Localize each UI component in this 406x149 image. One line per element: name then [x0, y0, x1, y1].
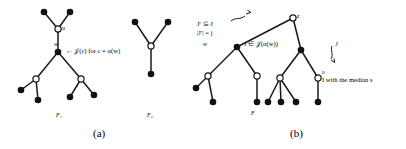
forest-label-f2: F₂ [147, 112, 153, 118]
tree-node-solid-w [234, 44, 241, 51]
tree-node-hollow [148, 43, 154, 49]
tree-node-hollow-u [55, 26, 61, 32]
tree-node-solid [67, 9, 74, 16]
annotation-i-median: I with the median s [322, 77, 373, 84]
panel-b-caption: (b) [290, 128, 303, 139]
tree-node-solid [148, 71, 155, 78]
node-label-z: z [297, 13, 299, 19]
annotation-jprime-subset: J′ ⊆ J [197, 21, 213, 28]
tree-node-solid [315, 99, 322, 106]
tree-node-hollow [277, 75, 283, 81]
panel-a-forest-f2 [132, 19, 172, 78]
node-label-w: w [54, 41, 58, 47]
tree-node-solid [165, 19, 172, 26]
forest-label-f: F [251, 110, 255, 116]
tree-node-solid [91, 92, 98, 99]
tree-node-hollow-u [315, 75, 321, 81]
tree-node-hollow [205, 73, 211, 79]
tree-node-solid [132, 19, 139, 26]
tree-node-hollow [78, 76, 84, 82]
annotation-j-in-j-alpha-w: J ∈ 𝒥(α(w)) [244, 41, 278, 48]
tree-node-solid [298, 47, 305, 54]
tree-node-hollow-z [290, 15, 296, 21]
tree-node-solid [41, 9, 48, 16]
tree-node-hollow [33, 76, 39, 82]
annotation-jprime-cardinality: |J′| = j [197, 30, 213, 37]
pointer-squiggle-jprime [231, 16, 245, 21]
node-label-u: u [62, 25, 65, 31]
tree-node-solid [278, 99, 285, 106]
tree-node-solid [18, 87, 25, 94]
tree-node-solid [254, 99, 261, 106]
panel-b-forest-f [193, 10, 335, 105]
pointer-squiggle-j [331, 46, 332, 59]
annotation-j-of-c: ← 𝒥(c) for c = α(w) [66, 48, 120, 55]
panel-a-caption: (a) [93, 128, 105, 139]
figure-container: u w ← 𝒥(c) for c = α(w) F₁ F₂ (a) z J′ ⊆… [0, 0, 406, 149]
tree-node-solid [35, 97, 42, 104]
tree-node-solid [67, 94, 74, 101]
tree-node-solid [293, 99, 300, 106]
pointer-arrowhead-jprime [246, 10, 251, 14]
annotation-j-pointer: J [335, 41, 338, 47]
forest-label-f1: F₁ [56, 112, 62, 118]
tree-node-solid [193, 85, 200, 92]
node-label-u: u [322, 70, 325, 75]
tree-node-hollow [254, 73, 260, 79]
tree-node-solid [265, 99, 272, 106]
panel-a-forest-f1 [18, 9, 98, 104]
node-label-w: w [203, 41, 207, 47]
tree-node-solid [210, 99, 217, 106]
tree-node-solid-w [55, 49, 62, 56]
